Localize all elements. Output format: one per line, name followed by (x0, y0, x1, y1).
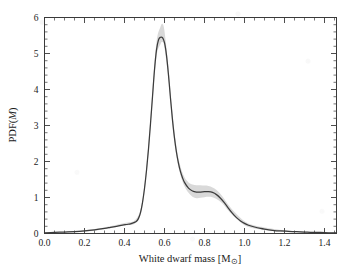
x-tick-label: 1.0 (239, 238, 251, 248)
uncertainty-band-group (45, 24, 337, 233)
y-tick-label: 0 (34, 229, 39, 239)
y-tick-label: 2 (34, 157, 39, 167)
y-tick-label: 1 (34, 193, 39, 203)
x-axis-label: White dwarf mass [M⊙] (139, 253, 241, 266)
y-tick-label: 4 (34, 85, 39, 95)
y-tick-labels: 0123456 (34, 13, 39, 239)
x-tick-label: 1.4 (319, 238, 331, 248)
chart-canvas: 0.00.20.40.60.81.01.21.4 0123456 White d… (0, 0, 350, 278)
uncertainty-band (45, 24, 337, 233)
x-tick-label: 0.2 (79, 238, 91, 248)
x-tick-label: 0.6 (159, 238, 171, 248)
plot-frame (45, 18, 337, 234)
y-tick-label: 5 (34, 49, 39, 59)
x-tick-label: 0.8 (199, 238, 211, 248)
x-tick-label: 0.0 (39, 238, 51, 248)
x-tick-label: 1.2 (279, 238, 291, 248)
figure-container: 0.00.20.40.60.81.01.21.4 0123456 White d… (0, 0, 350, 278)
axis-ticks-group (45, 18, 337, 234)
pdf-curve (45, 37, 337, 233)
x-tick-labels: 0.00.20.40.60.81.01.21.4 (39, 238, 331, 248)
y-tick-label: 6 (34, 13, 39, 23)
y-tick-label: 3 (34, 121, 39, 131)
data-curve-group (45, 37, 337, 233)
y-axis-label: PDF(M) (7, 107, 19, 143)
x-tick-label: 0.4 (119, 238, 131, 248)
